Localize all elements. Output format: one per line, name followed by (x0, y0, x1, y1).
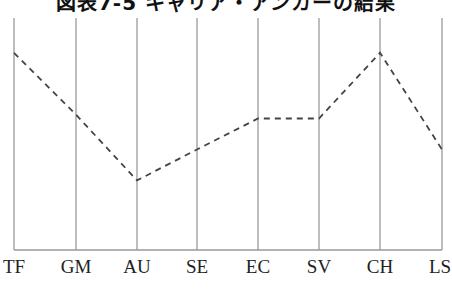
x-label-au: AU (123, 256, 150, 278)
x-label-se: SE (186, 256, 208, 278)
x-label-gm: GM (61, 256, 92, 278)
x-label-ec: EC (246, 256, 270, 278)
x-label-sv: SV (307, 256, 331, 278)
x-label-ch: CH (367, 256, 393, 278)
data-line-score (14, 53, 442, 181)
plot-area (0, 0, 452, 294)
x-label-tf: TF (3, 256, 25, 278)
x-axis-labels: TF GM AU SE EC SV CH LS (0, 256, 452, 286)
x-label-ls: LS (429, 256, 451, 278)
